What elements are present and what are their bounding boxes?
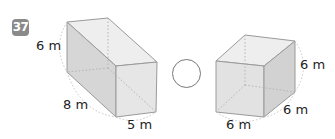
left-height-label: 6 m	[36, 38, 61, 53]
right-height-label: 6 m	[300, 57, 325, 72]
right-width-label: 6 m	[226, 117, 251, 132]
right-depth-label: 6 m	[283, 102, 308, 117]
left-width-label: 5 m	[127, 117, 152, 132]
comparison-answer-circle[interactable]	[172, 59, 201, 88]
prisms-figure	[0, 0, 335, 139]
left-length-label: 8 m	[63, 97, 88, 112]
